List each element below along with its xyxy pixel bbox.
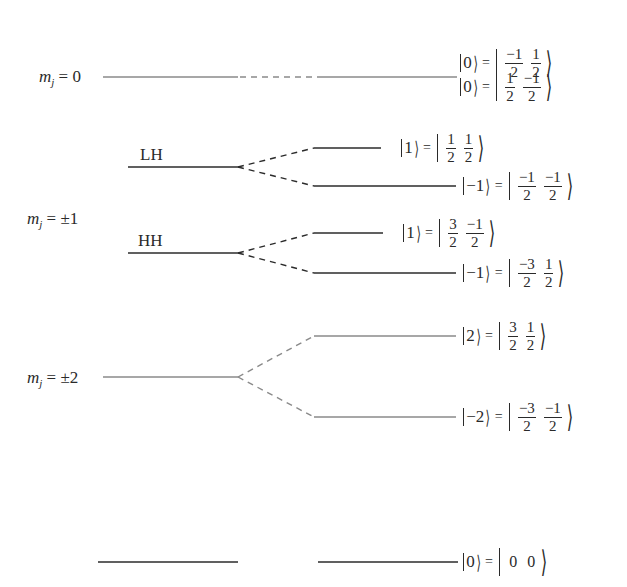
mj2-symbol: m [27,368,39,387]
fraction-denominator: 2 [528,88,536,104]
fraction-denominator: 2 [509,337,517,353]
ket-state-value: −2 [466,407,484,427]
ket-hh-down: −1⟩=−3212⟩ [463,256,567,290]
ket-state: 2⟩ [463,325,482,348]
ket-bar-icon [463,177,464,195]
fraction-denominator: 2 [523,274,531,290]
connector-mj2-down [238,377,314,417]
ket-state: 0⟩ [460,76,479,99]
mj2-label: mj = ±2 [27,369,78,389]
fraction-numerator: −1 [544,401,562,418]
ket-lh-up: 1⟩=1212⟩ [401,131,487,165]
ket-state: −1⟩ [463,175,492,198]
ket-2-down: −2⟩=−32−12⟩ [463,400,576,434]
ket-j-fraction: −12 [518,170,536,203]
ket-2-up: 2⟩=3212⟩ [463,319,549,353]
lh-label: LH [140,146,163,163]
fraction-numerator: 1 [526,320,536,337]
ket-angle-icon: ⟩ [486,262,490,285]
mj1-subscript: j [39,218,42,230]
equals-sign: = [423,140,431,156]
ket-m-fraction: −12 [523,71,541,104]
ket-angle-icon: ⟩ [486,175,490,198]
ket-bar-icon [401,139,402,157]
fraction-denominator: 2 [527,337,535,353]
connector-mj2-up [238,336,314,377]
ket-bar-icon [499,548,500,576]
ket-m-fraction: 12 [464,132,474,165]
fraction-numerator: −1 [466,217,484,234]
ket-bar-icon [437,134,438,162]
fraction-denominator: 2 [447,149,455,165]
mj1-value: = ±1 [47,209,79,228]
ket-m-fraction: −12 [466,217,484,250]
ket-bar-icon [460,78,461,96]
ket-j-fraction: −32 [518,401,536,434]
ket-angle-icon: ⟩ [476,325,480,348]
ket-m-fraction: −12 [544,401,562,434]
fraction-numerator: −1 [505,47,523,64]
fraction-denominator: 2 [549,187,557,203]
ket-state-value: −1 [466,263,484,283]
ket-bar-icon [463,264,464,282]
ket-j-fraction: 12 [446,132,456,165]
fraction-numerator: 3 [448,217,458,234]
ket-m-fraction: 12 [544,257,554,290]
equals-sign: = [495,409,503,425]
ket-bar-icon [499,322,500,350]
fraction-denominator: 2 [545,274,553,290]
mj1-label: mj = ±1 [27,210,78,230]
ket-lh-down: −1⟩=−12−12⟩ [463,169,576,203]
ket-j-value: 0 [509,553,517,571]
ket-hh-up: 1⟩=32−12⟩ [403,216,498,250]
fraction-numerator: 1 [531,47,541,64]
equals-sign: = [482,79,490,95]
ket-bar-icon [439,219,440,247]
ket-bar-icon [509,403,510,431]
connector-lh-up [238,148,314,167]
ket-j-fraction: 32 [508,320,518,353]
ket-angle-icon: ⟩ [566,402,572,432]
mj0-label: mj = 0 [39,68,81,88]
ket-ground: 0⟩=00⟩ [463,545,550,579]
fraction-numerator: 1 [544,257,554,274]
ket-angle-icon: ⟩ [473,76,477,99]
mj2-value: = ±2 [47,368,79,387]
ket-0-b: 0⟩=12−12⟩ [460,70,555,104]
fraction-numerator: 1 [505,71,515,88]
mj0-subscript: j [51,76,54,88]
fraction-denominator: 2 [465,149,473,165]
equals-sign: = [495,265,503,281]
ket-bar-icon [463,553,464,571]
ket-angle-icon: ⟩ [540,321,546,351]
fraction-numerator: −3 [518,257,536,274]
fraction-denominator: 2 [506,88,514,104]
ket-bar-icon [463,327,464,345]
ket-j-fraction: −32 [518,257,536,290]
ket-m-fraction: −12 [544,170,562,203]
ket-angle-icon: ⟩ [566,171,572,201]
ket-state-value: 1 [404,138,413,158]
fraction-numerator: −1 [518,170,536,187]
ket-state: 1⟩ [401,137,420,160]
fraction-numerator: 1 [464,132,474,149]
fraction-numerator: −3 [518,401,536,418]
ket-state-value: 2 [466,326,475,346]
equals-sign: = [485,328,493,344]
connector-hh-up [238,233,314,253]
equals-sign: = [495,178,503,194]
mj2-subscript: j [39,377,42,389]
ket-state: −1⟩ [463,262,492,285]
ket-angle-icon: ⟩ [478,133,484,163]
ket-angle-icon: ⟩ [476,551,480,574]
ket-state: −2⟩ [463,406,492,429]
ket-bar-icon [509,259,510,287]
ket-bar-icon [403,224,404,242]
ket-state-value: 0 [466,552,475,572]
ket-state-value: 0 [463,77,472,97]
ket-m-fraction: 12 [526,320,536,353]
equals-sign: = [482,55,490,71]
fraction-numerator: −1 [523,71,541,88]
fraction-denominator: 2 [471,234,479,250]
fraction-denominator: 2 [549,418,557,434]
